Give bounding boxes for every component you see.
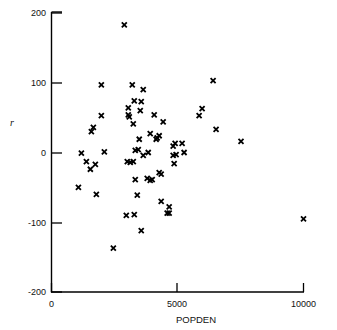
data-point-marker [93,162,98,167]
data-point-marker [84,159,89,164]
data-point-marker [197,113,202,118]
plot-svg: 200 100 0 -100 -200 0 5000 10000 POPDEN … [0,0,337,330]
data-point-marker [141,87,146,92]
data-point-marker [99,113,104,118]
data-point-marker [161,119,166,124]
data-point-marker [214,127,219,132]
data-point-marker [159,199,164,204]
data-point-marker [200,106,205,111]
x-axis-label: POPDEN [176,314,216,325]
scatter-plot-figure: 200 100 0 -100 -200 0 5000 10000 POPDEN … [0,0,337,330]
data-point-marker [122,22,127,27]
data-point-marker [138,108,143,113]
data-point-marker [239,139,244,144]
y-tick-label-100: 100 [31,78,46,88]
data-point-marker [167,204,172,209]
x-axis-ticks [52,283,304,292]
data-point-marker [102,149,107,154]
data-point-marker [126,105,131,110]
data-point-marker [148,131,153,136]
data-point-marker [211,78,216,83]
data-point-marker [141,153,146,158]
x-tick-label-0: 0 [49,299,54,309]
data-point-marker [135,193,140,198]
data-point-marker [124,213,129,218]
data-point-marker [301,216,306,221]
data-point-marker [139,228,144,233]
data-point-marker [131,121,136,126]
data-point-marker [139,99,144,104]
data-point-marker [180,141,185,146]
y-tick-label-0: 0 [41,148,46,158]
data-point-marker [94,192,99,197]
data-point-marker [182,150,187,155]
data-point-marker [172,161,177,166]
x-tick-label-5000: 5000 [167,299,187,309]
y-tick-label-neg200: -200 [28,287,46,297]
x-tick-label-10000: 10000 [291,299,316,309]
data-point-marker [111,246,116,251]
data-point-marker [152,112,157,117]
data-points-group [76,22,306,250]
y-tick-label-neg100: -100 [28,218,46,228]
data-point-marker [133,177,138,182]
data-point-marker [146,150,151,155]
data-point-marker [76,185,81,190]
y-axis-ticks [52,13,63,292]
data-point-marker [88,167,93,172]
y-tick-label-200: 200 [31,8,46,18]
data-point-marker [99,82,104,87]
y-axis-label: r [10,117,14,128]
data-point-marker [130,82,135,87]
data-point-marker [79,151,84,156]
data-point-marker [132,212,137,217]
data-point-marker [132,98,137,103]
data-point-marker [137,137,142,142]
